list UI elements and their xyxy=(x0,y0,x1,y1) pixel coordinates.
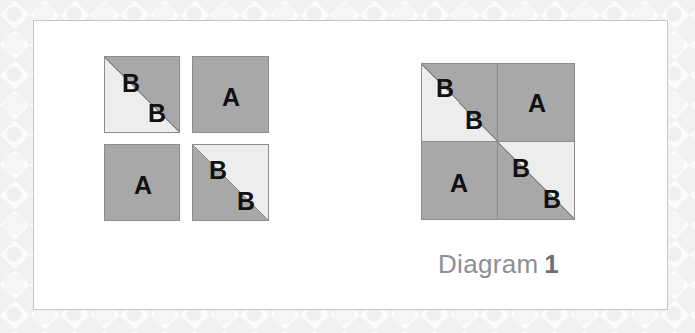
tile-4-upper-label: B xyxy=(209,158,227,183)
diagram-caption-text: Diagram xyxy=(438,249,538,279)
assembled-quadrant-bottom-right: B B xyxy=(497,141,575,220)
assembled-top-left-diagonal-fill xyxy=(422,64,497,141)
diagram-panel: B B A A B B B B A xyxy=(33,20,668,310)
assembled-top-right-label: A xyxy=(528,91,546,116)
assembled-bottom-right-upper-label: B xyxy=(512,156,530,181)
assembled-quadrant-top-right: A xyxy=(497,63,575,142)
tile-1-diagonal-fill xyxy=(105,57,179,132)
tile-4: B B xyxy=(192,144,269,221)
assembled-quadrant-top-left: B B xyxy=(421,63,498,142)
assembled-bottom-left-label: A xyxy=(450,171,468,196)
tile-3: A xyxy=(104,144,180,221)
tile-1: B B xyxy=(104,56,180,133)
tile-1-lower-label: B xyxy=(148,101,166,126)
tile-4-lower-label: B xyxy=(237,189,255,214)
tile-2-label: A xyxy=(222,85,240,110)
diagram-caption: Diagram1 xyxy=(438,249,559,280)
assembled-quadrant-bottom-left: A xyxy=(421,141,498,220)
assembled-top-left-upper-label: B xyxy=(436,76,454,101)
assembled-bottom-right-diagonal-fill xyxy=(498,142,574,219)
assembled-top-left-lower-label: B xyxy=(465,108,483,133)
tile-3-label: A xyxy=(134,173,152,198)
tile-4-diagonal-fill xyxy=(193,145,268,220)
tile-2: A xyxy=(192,56,269,133)
assembled-bottom-right-lower-label: B xyxy=(543,187,561,212)
diagram-caption-number: 1 xyxy=(544,249,559,279)
tile-1-upper-label: B xyxy=(122,71,140,96)
assembled-square-group: B B A A B B xyxy=(421,63,575,220)
